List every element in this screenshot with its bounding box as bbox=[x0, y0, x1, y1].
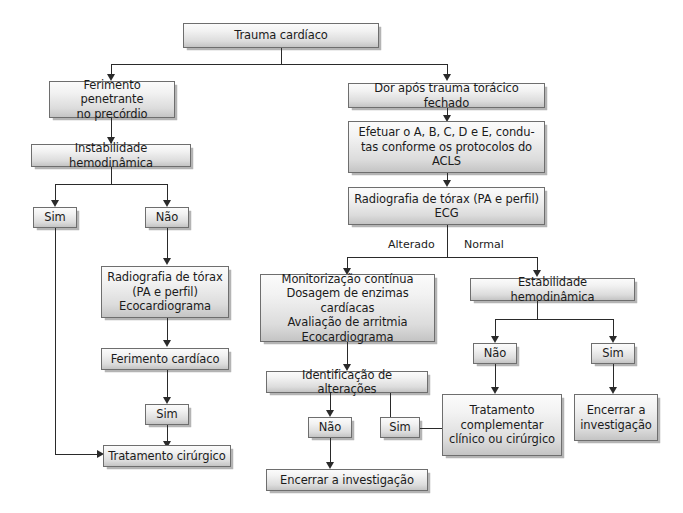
node-radiografia-ecg[interactable]: Radiografia de tórax (PA e perfil) ECG bbox=[348, 187, 545, 225]
arrowhead-ferimento-cardiaco bbox=[163, 340, 171, 347]
node-sim-alteracoes[interactable]: Sim bbox=[380, 417, 420, 438]
arrowhead-nao-estabilidade bbox=[491, 336, 499, 343]
label-alterado: Alterado bbox=[388, 238, 435, 251]
node-sim-ferimento[interactable]: Sim bbox=[145, 404, 189, 425]
connector-nao-to-radiografia bbox=[167, 228, 168, 262]
connector-ferimento-to-sim2 bbox=[167, 370, 168, 400]
node-instabilidade-hemodinamica[interactable]: Instabilidade hemodinâmica bbox=[31, 144, 191, 167]
connector-instabilidade-stem bbox=[111, 167, 112, 184]
arrowhead-root-right bbox=[443, 74, 451, 81]
node-dor-trauma-fechado[interactable]: Dor após trauma torácico fechado bbox=[348, 83, 545, 108]
node-tratamento-complementar[interactable]: Tratamento complementar clínico ou cirúr… bbox=[442, 394, 562, 456]
node-estabilidade-hemodinamica[interactable]: Estabilidade hemodinâmica bbox=[470, 278, 635, 301]
node-trauma-cardiaco[interactable]: Trauma cardíaco bbox=[183, 23, 379, 48]
node-acls-condutas[interactable]: Efetuar o A, B, C, D e E, condu- tas con… bbox=[348, 121, 545, 173]
node-tratamento-cirurgico[interactable]: Tratamento cirúrgico bbox=[103, 445, 231, 467]
connector-rxecg-stem bbox=[447, 225, 448, 257]
node-ferimento-cardiaco[interactable]: Ferimento cardíaco bbox=[101, 348, 229, 370]
node-radiografia-ecocardiograma[interactable]: Radiografia de tórax (PA e perfil) Ecoca… bbox=[101, 266, 229, 318]
connector-estabilidade-stem bbox=[537, 301, 538, 319]
arrowhead-radiografia-left bbox=[163, 258, 171, 265]
arrowhead-rx-ecg bbox=[443, 180, 451, 187]
flowchart-canvas: Trauma cardíaco Ferimento penetrante no … bbox=[0, 0, 683, 513]
node-monitorizacao-continua[interactable]: Monitorização contínua Dosagem de enzima… bbox=[260, 274, 435, 342]
arrowhead-encerrar-esquerda bbox=[326, 462, 334, 469]
connector-identificacao-to-sim bbox=[390, 393, 391, 417]
arrowhead-complementar-top bbox=[491, 387, 499, 394]
node-sim-estabilidade[interactable]: Sim bbox=[591, 343, 635, 364]
node-nao-instabilidade[interactable]: Não bbox=[145, 207, 189, 228]
arrowhead-nao-alteracoes bbox=[326, 410, 334, 417]
node-encerrar-investigacao-direita[interactable]: Encerrar a investigação bbox=[574, 394, 658, 441]
node-encerrar-investigacao-esquerda[interactable]: Encerrar a investigação bbox=[266, 469, 428, 491]
node-nao-estabilidade[interactable]: Não bbox=[473, 343, 517, 364]
connector-root-split bbox=[111, 64, 447, 65]
node-ferimento-penetrante[interactable]: Ferimento penetrante no precórdio bbox=[49, 81, 175, 118]
arrowhead-encerrar-direita bbox=[609, 387, 617, 394]
label-normal: Normal bbox=[464, 238, 504, 251]
connector-estabilidade-split bbox=[495, 319, 613, 320]
node-nao-alteracoes[interactable]: Não bbox=[308, 417, 352, 438]
connector-sim-to-tratamento bbox=[55, 454, 99, 455]
arrowhead-sim2 bbox=[163, 397, 171, 404]
arrowhead-sim-estabilidade bbox=[609, 336, 617, 343]
arrowhead-nao-left bbox=[163, 200, 171, 207]
node-identificacao-alteracoes[interactable]: Identificação de alterações bbox=[266, 371, 428, 393]
node-sim-instabilidade[interactable]: Sim bbox=[33, 207, 77, 228]
connector-sim-long-down bbox=[55, 228, 56, 454]
connector-root-stem bbox=[281, 48, 282, 64]
connector-instabilidade-split bbox=[55, 184, 167, 185]
arrowhead-sim-left bbox=[51, 200, 59, 207]
connector-alterado-normal-split bbox=[347, 257, 537, 258]
